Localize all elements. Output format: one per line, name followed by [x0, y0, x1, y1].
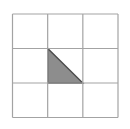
geometry-grid-figure: [0, 0, 130, 129]
figure-canvas: [0, 0, 130, 129]
